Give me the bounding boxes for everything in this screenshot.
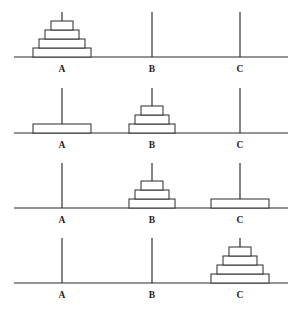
peg-group-c: C <box>211 163 269 225</box>
peg-label-a: A <box>59 64 66 74</box>
panels-group: ABCABCABCABC <box>14 12 288 300</box>
disk-size-3[interactable] <box>129 199 175 208</box>
towers-of-hanoi-figure: ABCABCABCABC <box>0 0 304 311</box>
peg-group-c: C <box>237 88 244 150</box>
peg-label-c: C <box>237 64 244 74</box>
peg-group-a: A <box>33 12 91 74</box>
disk-size-3[interactable] <box>129 124 175 133</box>
disk-size-3[interactable] <box>217 265 263 274</box>
peg-label-b: B <box>149 290 156 300</box>
hanoi-panel: ABC <box>14 163 288 225</box>
disk-size-1[interactable] <box>51 21 73 30</box>
hanoi-panel: ABC <box>14 12 288 74</box>
peg-label-c: C <box>237 140 244 150</box>
hanoi-panel: ABC <box>14 238 288 300</box>
peg-group-a: A <box>33 88 91 150</box>
disk-size-4[interactable] <box>33 124 91 133</box>
disk-size-1[interactable] <box>141 181 163 190</box>
peg-group-b: B <box>149 238 156 300</box>
peg-group-a: A <box>59 238 66 300</box>
disk-size-1[interactable] <box>229 247 251 256</box>
peg-label-b: B <box>149 215 156 225</box>
disk-size-2[interactable] <box>223 256 257 265</box>
disk-size-2[interactable] <box>135 190 169 199</box>
hanoi-panel: ABC <box>14 88 288 150</box>
peg-group-b: B <box>129 163 175 225</box>
disk-size-4[interactable] <box>211 199 269 208</box>
disk-size-2[interactable] <box>135 115 169 124</box>
peg-label-b: B <box>149 64 156 74</box>
disk-size-3[interactable] <box>39 39 85 48</box>
disk-size-2[interactable] <box>45 30 79 39</box>
peg-label-a: A <box>59 290 66 300</box>
peg-label-a: A <box>59 140 66 150</box>
peg-group-b: B <box>149 12 156 74</box>
peg-group-c: C <box>211 238 269 300</box>
peg-group-a: A <box>59 163 66 225</box>
peg-group-c: C <box>237 12 244 74</box>
disk-size-4[interactable] <box>211 274 269 283</box>
peg-label-a: A <box>59 215 66 225</box>
peg-label-c: C <box>237 215 244 225</box>
peg-group-b: B <box>129 88 175 150</box>
peg-label-b: B <box>149 140 156 150</box>
peg-label-c: C <box>237 290 244 300</box>
disk-size-4[interactable] <box>33 48 91 57</box>
disk-size-1[interactable] <box>141 106 163 115</box>
